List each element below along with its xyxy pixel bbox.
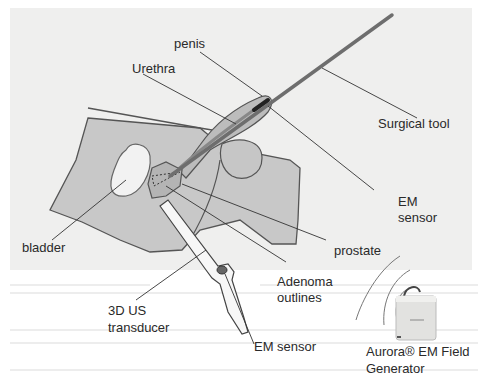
label-surgical-tool: Surgical tool xyxy=(378,116,450,132)
label-adenoma-1: Adenoma xyxy=(277,274,333,290)
label-prostate: prostate xyxy=(334,243,381,259)
anatomy-diagram xyxy=(0,0,478,380)
leader-penis xyxy=(200,52,262,96)
label-bladder: bladder xyxy=(22,240,65,256)
label-us-transducer-1: 3D US xyxy=(108,303,146,319)
label-field-generator-2: Generator xyxy=(366,361,425,377)
label-em-sensor-probe: EM sensor xyxy=(254,339,316,355)
label-adenoma-2: outlines xyxy=(277,290,322,306)
label-em-sensor-tool-2: sensor xyxy=(398,210,437,226)
label-em-sensor-tool-1: EM xyxy=(398,194,418,210)
label-field-generator-1: Aurora® EM Field xyxy=(366,344,470,360)
leader-urethra xyxy=(143,74,236,124)
label-penis: penis xyxy=(174,36,205,52)
field-generator-device xyxy=(396,287,436,340)
label-us-transducer-2: transducer xyxy=(108,320,169,336)
probe-em-sensor xyxy=(217,266,227,274)
label-urethra: Urethra xyxy=(132,61,175,77)
leader-surgical-tool xyxy=(322,68,417,118)
